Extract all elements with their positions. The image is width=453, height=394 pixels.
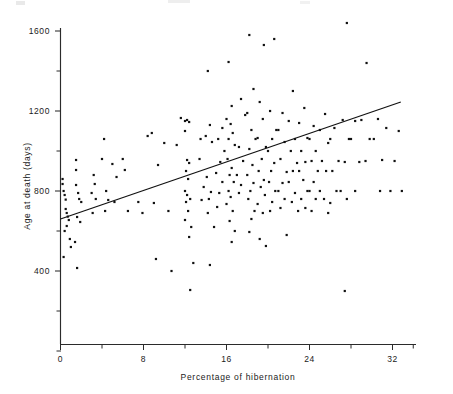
- data-point: [234, 230, 236, 232]
- data-point: [340, 190, 342, 192]
- data-point: [210, 191, 212, 193]
- data-point: [393, 160, 395, 162]
- data-point: [225, 118, 227, 120]
- data-point: [273, 162, 275, 164]
- data-point: [76, 267, 78, 269]
- data-point: [319, 190, 321, 192]
- data-point: [61, 183, 63, 185]
- data-point: [327, 142, 329, 144]
- data-point: [65, 199, 67, 201]
- data-point: [315, 198, 317, 200]
- data-point: [231, 241, 233, 243]
- scatter-plot-figure: 40080012001600 08162432 Percentage of hi…: [0, 0, 453, 394]
- data-point: [346, 198, 348, 200]
- data-point: [369, 138, 371, 140]
- data-point: [189, 198, 191, 200]
- data-point: [335, 190, 337, 192]
- data-point: [63, 256, 65, 258]
- data-point: [186, 119, 188, 121]
- data-point: [263, 179, 265, 181]
- x-tick-label: 32: [387, 354, 398, 364]
- data-point: [188, 236, 190, 238]
- data-point: [216, 206, 218, 208]
- data-point: [306, 190, 308, 192]
- data-point: [329, 202, 331, 204]
- data-point: [329, 138, 331, 140]
- data-point: [78, 198, 80, 200]
- data-point: [248, 231, 250, 233]
- data-point: [324, 113, 326, 115]
- data-point: [354, 190, 356, 192]
- data-point: [227, 138, 229, 140]
- data-point: [269, 110, 271, 112]
- data-point: [61, 178, 63, 180]
- data-point: [288, 120, 290, 122]
- data-point: [303, 107, 305, 109]
- data-point: [304, 207, 306, 209]
- data-point: [203, 186, 205, 188]
- data-point: [75, 169, 77, 171]
- data-point: [122, 158, 124, 160]
- data-point: [292, 170, 294, 172]
- x-tick-label: 8: [141, 354, 146, 364]
- data-point: [325, 170, 327, 172]
- data-point: [64, 230, 66, 232]
- data-point: [192, 262, 194, 264]
- data-point: [209, 124, 211, 126]
- data-point: [385, 127, 387, 129]
- data-point: [104, 210, 106, 212]
- data-point: [176, 144, 178, 146]
- data-point: [221, 127, 223, 129]
- data-point: [297, 210, 299, 212]
- data-point: [151, 132, 153, 134]
- data-point: [246, 174, 248, 176]
- data-point: [270, 170, 272, 172]
- y-tick-label: 1200: [29, 106, 50, 116]
- data-point: [304, 161, 306, 163]
- data-point: [271, 138, 273, 140]
- data-point: [185, 201, 187, 203]
- data-point: [207, 70, 209, 72]
- data-point: [321, 160, 323, 162]
- data-point: [346, 22, 348, 24]
- data-point: [157, 164, 159, 166]
- data-point: [147, 135, 149, 137]
- data-point: [381, 159, 383, 161]
- data-point: [229, 174, 231, 176]
- y-tick-label: 800: [34, 186, 50, 196]
- data-point: [124, 169, 126, 171]
- data-point: [262, 118, 264, 120]
- data-point: [277, 129, 279, 131]
- data-point: [80, 201, 82, 203]
- x-axis-title: Percentage of hibernation: [181, 372, 296, 382]
- data-point: [163, 142, 165, 144]
- data-point: [373, 138, 375, 140]
- data-point: [187, 210, 189, 212]
- data-point: [208, 198, 210, 200]
- data-point: [279, 207, 281, 209]
- data-point: [310, 210, 312, 212]
- data-point: [331, 170, 333, 172]
- data-point: [315, 150, 317, 152]
- data-point: [252, 88, 254, 90]
- data-point: [248, 148, 250, 150]
- data-point: [298, 122, 300, 124]
- data-point: [317, 170, 319, 172]
- data-point: [348, 138, 350, 140]
- data-point: [233, 181, 235, 183]
- data-point: [279, 158, 281, 160]
- data-point: [230, 123, 232, 125]
- data-point: [238, 146, 240, 148]
- data-point: [201, 199, 203, 201]
- data-point: [188, 121, 190, 123]
- data-point: [170, 270, 172, 272]
- data-point: [240, 98, 242, 100]
- data-point: [217, 138, 219, 140]
- data-point: [66, 225, 68, 227]
- data-point: [342, 119, 344, 121]
- data-point: [205, 135, 207, 137]
- data-point: [354, 120, 356, 122]
- data-point: [269, 210, 271, 212]
- data-point: [302, 179, 304, 181]
- data-point: [64, 194, 66, 196]
